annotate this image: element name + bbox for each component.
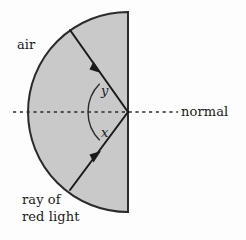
- ray-label-line-1: ray of: [22, 192, 80, 209]
- ray-label-line-2: red light: [22, 209, 80, 226]
- refraction-diagram: air normal ray of red light y x: [0, 0, 246, 240]
- angle-y-label: y: [101, 83, 108, 98]
- ray-of-red-light-label: ray of red light: [22, 192, 80, 225]
- air-label: air: [17, 37, 35, 54]
- angle-x-label: x: [101, 125, 108, 140]
- normal-label: normal: [181, 104, 228, 121]
